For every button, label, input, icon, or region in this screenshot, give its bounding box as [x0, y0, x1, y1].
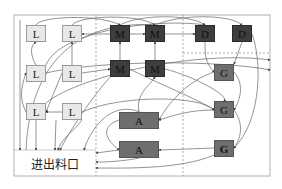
node-M3: M: [110, 60, 130, 77]
node-M2: M: [145, 25, 165, 42]
node-A2: A: [119, 141, 159, 158]
node-D1: D: [195, 25, 215, 42]
node-L4: L: [62, 65, 82, 82]
node-L6: L: [62, 103, 82, 120]
node-L1: L: [26, 25, 46, 42]
node-L2: L: [62, 25, 82, 42]
inlet-outlet-label: 进出料口: [14, 150, 96, 176]
node-M4: M: [145, 60, 165, 77]
node-L5: L: [26, 103, 46, 120]
node-A1: A: [119, 112, 159, 129]
node-G2: G: [214, 101, 234, 118]
node-M1: M: [110, 25, 130, 42]
workshop-layout-diagram: L L L L L L M M M M D D G G G A A 进出料口: [0, 0, 282, 189]
node-G3: G: [214, 140, 234, 157]
node-L3: L: [26, 65, 46, 82]
node-D2: D: [232, 25, 252, 42]
node-G1: G: [214, 64, 234, 81]
